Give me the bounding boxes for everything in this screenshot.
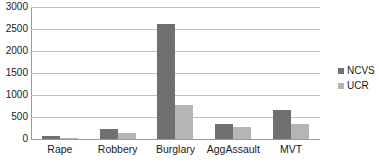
x-axis-label-aggassault: AggAssault	[204, 143, 262, 156]
bar-ucr-mvt	[291, 124, 309, 139]
bars-layer	[31, 7, 320, 139]
bar-ncvs-rape	[42, 136, 60, 139]
y-axis-tick-labels: 050010001500200025003000	[0, 0, 28, 166]
y-axis-tick-label: 1000	[0, 90, 28, 100]
legend-swatch-icon	[338, 68, 344, 74]
bar-group	[147, 7, 205, 139]
legend-label: UCR	[347, 81, 369, 91]
bar-chart: 050010001500200025003000 RapeRobberyBurg…	[0, 0, 379, 166]
x-axis-label-burglary: Burglary	[147, 143, 205, 156]
y-axis-tick-label: 0	[0, 134, 28, 144]
x-axis-label-rape: Rape	[31, 143, 89, 156]
bar-ncvs-robbery	[100, 129, 118, 139]
x-axis-label-mvt: MVT	[262, 143, 320, 156]
legend-swatch-icon	[338, 83, 344, 89]
bar-group	[31, 7, 89, 139]
bar-group	[89, 7, 147, 139]
y-axis-tick-label: 500	[0, 112, 28, 122]
bar-ucr-aggassault	[233, 127, 251, 139]
x-axis-category-labels: RapeRobberyBurglaryAggAssaultMVT	[31, 143, 320, 163]
bar-ucr-burglary	[175, 105, 193, 139]
bar-ncvs-burglary	[157, 24, 175, 139]
legend-label: NCVS	[347, 66, 375, 76]
chart-legend: NCVSUCR	[338, 63, 379, 93]
bar-ncvs-aggassault	[215, 124, 233, 139]
bar-ncvs-mvt	[273, 110, 291, 139]
bar-ucr-robbery	[118, 133, 136, 139]
legend-item-ncvs[interactable]: NCVS	[338, 63, 379, 78]
y-axis-tick-label: 1500	[0, 68, 28, 78]
bar-ucr-rape	[60, 138, 78, 139]
y-axis-tick-label: 3000	[0, 2, 28, 12]
legend-item-ucr[interactable]: UCR	[338, 78, 379, 93]
bar-group	[262, 7, 320, 139]
y-axis-tick-label: 2000	[0, 46, 28, 56]
axis-baseline	[31, 139, 320, 140]
bar-group	[204, 7, 262, 139]
y-axis-tick-label: 2500	[0, 24, 28, 34]
x-axis-label-robbery: Robbery	[89, 143, 147, 156]
